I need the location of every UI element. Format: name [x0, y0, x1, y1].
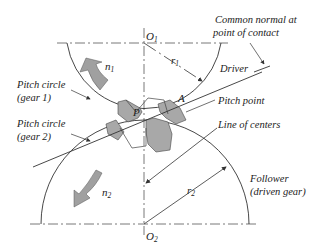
label-driver: Driver [219, 63, 249, 74]
label-follower-1: Follower [249, 173, 289, 184]
label-o2: O2 [146, 230, 158, 244]
rotation-arrow-n1 [80, 58, 108, 90]
label-follower-2: (driven gear) [250, 186, 306, 198]
gear-diagram: O1 O2 n1 n2 r1 r2 P A Common normal at p… [0, 0, 321, 247]
label-common-normal-2: point of contact [212, 27, 280, 38]
label-n1: n1 [105, 60, 114, 74]
label-n2: n2 [102, 186, 112, 200]
label-line-of-centers: Line of centers [217, 119, 280, 130]
pitch-circle-gear2 [41, 120, 249, 224]
rotation-arrow-n2 [74, 170, 102, 207]
radius-r2 [144, 167, 226, 224]
label-pitch-circle-gear2-2: (gear 2) [17, 131, 52, 143]
common-normal-tick [254, 66, 270, 72]
label-pitch-circle-gear2-1: Pitch circle [16, 118, 66, 129]
label-r1: r1 [171, 54, 179, 68]
label-pitch-circle-gear1-1: Pitch circle [16, 79, 66, 90]
label-p: P [132, 106, 140, 118]
center-axes [30, 28, 258, 235]
label-common-normal-1: Common normal at [215, 14, 298, 25]
label-a: A [177, 92, 185, 104]
label-pitch-circle-gear1-2: (gear 1) [17, 92, 52, 104]
label-r2: r2 [187, 184, 195, 198]
gear2-tooth-center [146, 118, 172, 152]
label-o1: O1 [146, 30, 158, 44]
label-pitch-point: Pitch point [217, 95, 265, 106]
